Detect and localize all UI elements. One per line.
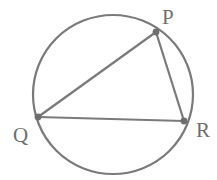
vertex-label-p: P xyxy=(162,5,174,29)
vertex-dot-p xyxy=(153,29,160,36)
geometry-figure: P Q R xyxy=(0,0,217,180)
vertex-label-r: R xyxy=(196,118,210,142)
vertex-dot-r xyxy=(181,118,188,125)
vertex-dot-q xyxy=(35,114,42,121)
chord-qr xyxy=(38,117,184,121)
vertex-label-q: Q xyxy=(13,123,28,147)
chord-pr xyxy=(156,32,184,121)
chord-pq xyxy=(38,32,156,117)
circumscribed-circle xyxy=(33,15,193,174)
geometry-canvas: P Q R xyxy=(0,0,217,180)
